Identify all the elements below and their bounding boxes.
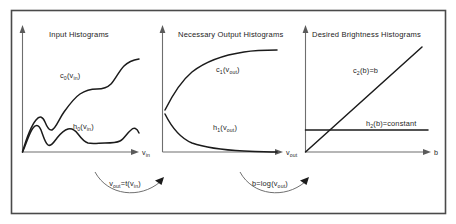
panel1-y-axis-arrowhead <box>20 25 26 33</box>
panel1-x-axis-arrowhead <box>131 149 139 155</box>
panel3-x-axis-arrowhead <box>423 149 431 155</box>
flow-label-1: vout=t(vin) <box>109 179 141 189</box>
flow-label-2: b=log(vout) <box>252 179 288 189</box>
panel2-x-axis-label: vout <box>286 148 298 158</box>
panel-necessary-output-histograms: Necessary Output Histograms c1(vout) h1(… <box>160 25 298 158</box>
panel3-title: Desired Brightness Histograms <box>312 30 421 39</box>
curve-c2 <box>306 47 423 152</box>
figure-canvas: Input Histograms c0(vin) h0(vin) vin Nec… <box>0 0 456 224</box>
flow-arrowhead-1 <box>155 177 164 185</box>
curve-h1 <box>165 114 277 152</box>
panel3-y-axis-arrowhead <box>303 25 309 33</box>
panel-desired-brightness-histograms: Desired Brightness Histograms c2(b)=b h2… <box>303 25 439 157</box>
panel1-x-axis-label: vin <box>142 148 150 158</box>
figure-frame <box>12 11 446 214</box>
panel3-x-axis-label: b <box>434 148 438 157</box>
panel1-title: Input Histograms <box>49 30 109 39</box>
label-h1: h1(vout) <box>213 123 237 133</box>
panel2-title: Necessary Output Histograms <box>178 30 283 39</box>
flow-arrowhead-2 <box>300 177 309 185</box>
label-h2: h2(b)=constant <box>366 119 416 129</box>
label-h0: h0(vin) <box>73 122 94 132</box>
curve-c1 <box>165 50 277 110</box>
flow-arrow-b-log: b=log(vout) <box>240 172 309 193</box>
flow-arrow-v-out: vout=t(vin) <box>95 172 164 193</box>
panel2-y-axis-arrowhead <box>160 25 166 33</box>
figure-root: Input Histograms c0(vin) h0(vin) vin Nec… <box>0 0 456 224</box>
label-c1: c1(vout) <box>216 65 240 75</box>
label-c2: c2(b)=b <box>353 66 378 76</box>
panel-input-histograms: Input Histograms c0(vin) h0(vin) vin <box>20 25 150 158</box>
label-c0: c0(vin) <box>60 71 80 81</box>
